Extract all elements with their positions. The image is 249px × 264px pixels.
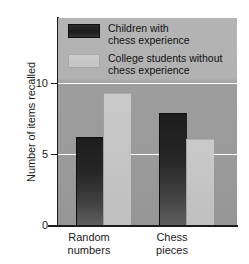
- y-tick-mark-5: [51, 154, 58, 156]
- legend-item-college: College students without chess experienc…: [68, 53, 236, 76]
- chart-legend: Children with chess experience College s…: [68, 23, 236, 83]
- y-tick-mark-0: [51, 225, 58, 227]
- legend-label-children-line1: Children with: [108, 23, 190, 35]
- bar-college-chess-pieces: [186, 139, 214, 225]
- legend-label-children: Children with chess experience: [108, 23, 190, 46]
- x-category-label-chess-pieces: Chess pieces: [127, 231, 217, 256]
- legend-label-college-line2: chess experience: [108, 65, 222, 77]
- x-category-label-random-numbers: Random numbers: [44, 231, 134, 256]
- legend-label-college-line1: College students without: [108, 53, 222, 65]
- bar-chart-figure: Number of items recalled 10 5 0 Children…: [0, 0, 249, 264]
- y-tick-label-0: 0: [8, 219, 48, 231]
- y-tick-label-5: 5: [8, 148, 48, 160]
- x-category-random-numbers-line1: Random: [44, 231, 134, 244]
- x-category-chess-pieces-line2: pieces: [127, 244, 217, 257]
- bar-children-chess-pieces: [159, 113, 187, 225]
- legend-label-children-line2: chess experience: [108, 35, 190, 47]
- bar-college-random-numbers: [103, 93, 131, 225]
- plot-area: Children with chess experience College s…: [58, 18, 237, 225]
- legend-label-college: College students without chess experienc…: [108, 53, 222, 76]
- legend-swatch-college: [68, 54, 100, 68]
- x-axis-line: [48, 225, 238, 227]
- y-tick-mark-10: [51, 83, 58, 85]
- x-category-chess-pieces-line1: Chess: [127, 231, 217, 244]
- bar-children-random-numbers: [76, 137, 104, 225]
- legend-item-children: Children with chess experience: [68, 23, 236, 46]
- legend-swatch-children: [68, 24, 100, 38]
- y-tick-label-10: 10: [8, 77, 48, 89]
- y-axis-title: Number of items recalled: [25, 27, 37, 217]
- x-category-random-numbers-line2: numbers: [44, 244, 134, 257]
